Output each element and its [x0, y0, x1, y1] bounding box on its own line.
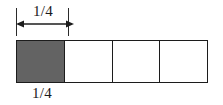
dimension-annotation: 1/4: [0, 0, 223, 40]
bar-cell-2: [65, 41, 113, 82]
fraction-bar: [16, 40, 208, 83]
bar-cell-1: [17, 41, 65, 82]
bar-cell-4: [160, 41, 207, 82]
bottom-fraction-label: 1/4: [16, 85, 68, 102]
fraction-bar-diagram: 1/4 1/4: [0, 0, 223, 105]
bar-cell-3: [113, 41, 161, 82]
double-headed-arrow-icon: [10, 16, 80, 32]
